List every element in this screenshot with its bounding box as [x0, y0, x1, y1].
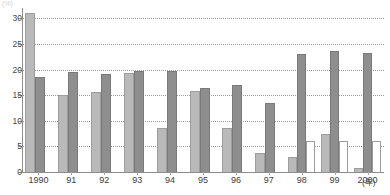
x-axis-tick: [335, 172, 336, 175]
bar: [134, 71, 144, 172]
x-axis-tick: [71, 172, 72, 175]
bar: [124, 73, 134, 172]
bar: [35, 77, 45, 172]
bar: [372, 141, 381, 172]
x-axis-tick-label: 1990: [22, 176, 55, 185]
bar: [167, 71, 177, 172]
bar: [306, 141, 315, 172]
bar: [25, 13, 35, 172]
bar: [339, 141, 348, 172]
y-axis-tick-label: 25: [4, 40, 22, 49]
y-axis-tick-label: 0: [4, 168, 22, 177]
x-axis-tick-label: 93: [121, 176, 154, 185]
x-axis-tick: [104, 172, 105, 175]
x-axis-tick-label: 91: [55, 176, 88, 185]
bar-group: [321, 8, 348, 172]
chart-container: (%) 051015202530 19909192939495969798992…: [0, 0, 390, 195]
bar-group: [157, 8, 184, 172]
bar: [68, 72, 78, 172]
x-axis-tick: [137, 172, 138, 175]
bar-group: [58, 8, 85, 172]
y-axis-tick-label: 30: [4, 14, 22, 23]
bar: [222, 128, 232, 172]
bar-groups: [22, 8, 384, 172]
bar-group: [91, 8, 118, 172]
plot-area: [22, 8, 384, 172]
x-axis-tick-label: 97: [252, 176, 285, 185]
x-axis-tick-label: 94: [154, 176, 187, 185]
bar: [91, 92, 101, 172]
y-axis-unit-label: (%): [2, 0, 13, 7]
bar-group: [354, 8, 381, 172]
y-axis-tick-label: 20: [4, 65, 22, 74]
bar: [200, 88, 210, 172]
bar: [321, 134, 330, 172]
x-axis-tick-label: 96: [219, 176, 252, 185]
y-axis-tick-label: 5: [4, 142, 22, 151]
bar: [101, 74, 111, 172]
x-axis-tick: [170, 172, 171, 175]
bar-group: [255, 8, 282, 172]
bar-group: [190, 8, 217, 172]
bar: [265, 103, 275, 172]
x-axis-tick: [38, 172, 39, 175]
x-axis-tick-label: 99: [318, 176, 351, 185]
bar: [354, 168, 363, 172]
x-axis-tick-label: 92: [88, 176, 121, 185]
bar-group: [124, 8, 151, 172]
x-axis-tick: [236, 172, 237, 175]
bar: [190, 91, 200, 172]
x-axis-tick: [203, 172, 204, 175]
bar-group: [288, 8, 315, 172]
bar-group: [25, 8, 52, 172]
bar: [157, 128, 167, 172]
x-axis-tick-label: 98: [285, 176, 318, 185]
bar: [363, 53, 372, 172]
y-axis-tick-label: 10: [4, 117, 22, 126]
x-axis-tick-label: 95: [187, 176, 220, 185]
x-axis-tick: [269, 172, 270, 175]
y-axis-tick-label: 15: [4, 91, 22, 100]
x-axis-tick: [302, 172, 303, 175]
bar: [297, 54, 306, 172]
bar: [232, 85, 242, 172]
bar-group: [222, 8, 249, 172]
bar: [255, 153, 265, 172]
x-axis-unit-label: (年): [362, 176, 375, 187]
bar: [288, 157, 297, 172]
bar: [330, 51, 339, 172]
bar: [58, 95, 68, 172]
x-axis-tick: [368, 172, 369, 175]
